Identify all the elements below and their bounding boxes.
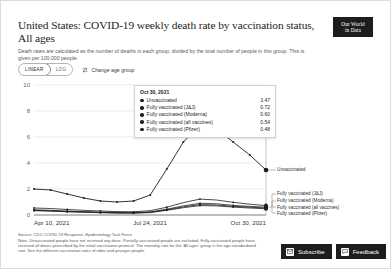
svg-text:10: 10: [23, 82, 30, 88]
tooltip-row: Unvaccinated 3.47: [140, 97, 270, 104]
tooltip-series-name: Fully vaccinated (Moderna): [147, 111, 254, 118]
series-label-all-vaccines: Fully vaccinated (all vaccines): [277, 205, 339, 210]
chart-tooltip: Oct 30, 2021 Unvaccinated 3.47 Fully vac…: [134, 85, 276, 138]
feedback-button[interactable]: Feedback: [336, 244, 386, 259]
tooltip-series-value: 0.60: [254, 111, 270, 118]
svg-text:0: 0: [27, 212, 31, 218]
tooltip-row: Fully vaccinated (J&J) 0.72: [140, 104, 270, 111]
series-dot-icon: [140, 113, 144, 117]
feedback-label: Feedback: [353, 249, 379, 255]
overlay-buttons: Subscribe Feedback: [281, 244, 386, 259]
tooltip-series-name: Unvaccinated: [147, 97, 254, 104]
svg-text:Apr 10, 2021: Apr 10, 2021: [34, 219, 70, 226]
svg-text:Jul 24, 2021: Jul 24, 2021: [133, 219, 167, 226]
svg-text:Oct 30, 2021: Oct 30, 2021: [231, 219, 267, 226]
chart-toolbar: LINEAR LOG Change age group: [18, 63, 134, 76]
tooltip-series-value: 0.72: [254, 104, 270, 111]
tooltip-row: Fully vaccinated (Pfizer) 0.48: [140, 126, 270, 133]
chart-card: United States: COVID-19 weekly death rat…: [0, 0, 391, 269]
label-leader-lines: [268, 170, 276, 213]
chart-subtitle: Death rates are calculated as the number…: [18, 48, 316, 61]
tooltip-series-name: Fully vaccinated (Pfizer): [147, 126, 254, 133]
change-age-group-label: Change age group: [91, 67, 134, 73]
speech-bubble-icon: [341, 248, 349, 256]
series-label-pfizer: Fully vaccinated (Pfizer): [277, 211, 327, 216]
note-text: Note: Unvaccinated people have not recei…: [18, 238, 258, 254]
svg-text:8: 8: [27, 108, 31, 114]
tooltip-series-value: 0.48: [254, 126, 270, 133]
scale-log-button[interactable]: LOG: [50, 64, 73, 75]
svg-text:4: 4: [27, 160, 31, 166]
y-axis-ticks: 10 8 6 4 2 0: [23, 82, 30, 218]
tooltip-row: Fully vaccinated (Moderna) 0.60: [140, 111, 270, 118]
source-text: Source: CDC COVID-19 Response, Epidemiol…: [18, 232, 258, 237]
svg-text:2: 2: [27, 186, 31, 192]
series-dot-icon: [140, 120, 144, 124]
tooltip-series-name: Fully vaccinated (J&J): [147, 104, 254, 111]
series-dot-icon: [140, 106, 144, 110]
svg-text:6: 6: [27, 134, 31, 140]
tooltip-series-value: 0.54: [254, 119, 270, 126]
owid-logo[interactable]: Our World in Data: [333, 17, 373, 37]
chart-header: United States: COVID-19 weekly death rat…: [18, 19, 373, 61]
change-age-group-button[interactable]: Change age group: [82, 67, 134, 73]
chart-footer: Source: CDC COVID-19 Response, Epidemiol…: [18, 232, 258, 253]
tooltip-series-name: Fully vaccinated (all vaccines): [147, 119, 254, 126]
series-label-unvaccinated: Unvaccinated: [277, 167, 305, 172]
subscribe-label: Subscribe: [298, 249, 325, 255]
scale-switch[interactable]: LINEAR LOG: [18, 63, 73, 76]
tooltip-series-value: 3.47: [254, 97, 270, 104]
scale-linear-button[interactable]: LINEAR: [18, 63, 51, 76]
series-label-moderna: Fully vaccinated (Moderna): [277, 198, 334, 203]
tooltip-row: Fully vaccinated (all vaccines) 0.54: [140, 119, 270, 126]
owid-logo-line2: in Data: [345, 27, 361, 33]
x-axis-ticks: Apr 10, 2021 Jul 24, 2021 Oct 30, 2021: [34, 219, 267, 226]
tooltip-date: Oct 30, 2021: [140, 89, 270, 95]
envelope-icon: [286, 248, 294, 256]
page-title: United States: COVID-19 weekly death rat…: [18, 19, 318, 44]
series-dot-icon: [140, 99, 144, 103]
series-label-jj: Fully vaccinated (J&J): [277, 191, 323, 196]
subscribe-button[interactable]: Subscribe: [281, 244, 332, 259]
series-dot-icon: [140, 128, 144, 132]
swap-arrows-icon: [82, 67, 88, 73]
